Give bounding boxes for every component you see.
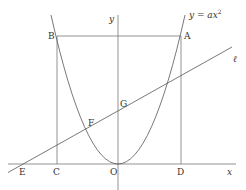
label-line-l: ℓ <box>233 54 237 64</box>
line-l <box>8 47 232 173</box>
label-point-B: B <box>48 31 55 41</box>
label-x-axis: x <box>227 167 232 177</box>
label-point-D: D <box>177 167 184 177</box>
label-point-G: G <box>120 99 127 109</box>
parabola-diagram: y x O y = ax2 ℓ A B C D E F G <box>0 0 246 190</box>
label-y-axis: y <box>108 14 115 24</box>
curve-exp: 2 <box>218 8 222 15</box>
label-point-E: E <box>19 167 26 177</box>
curve-eq: = <box>194 10 207 20</box>
label-origin: O <box>110 167 117 177</box>
label-point-C: C <box>53 167 60 177</box>
label-point-F: F <box>88 118 94 128</box>
label-curve: y = ax2 <box>188 8 222 20</box>
label-point-A: A <box>183 31 191 41</box>
